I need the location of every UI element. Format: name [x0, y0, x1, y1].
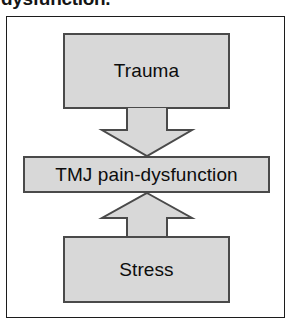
- node-label-trauma: Trauma: [114, 60, 179, 82]
- block-arrow-down-svg: [97, 107, 197, 158]
- node-box-stress: Stress: [63, 236, 230, 303]
- node-label-stress: Stress: [119, 259, 173, 281]
- block-arrow-down-icon: [97, 107, 197, 158]
- block-arrow-up-shape: [102, 193, 192, 237]
- figure-caption-truncated: dysfunction.: [1, 0, 110, 10]
- node-box-trauma: Trauma: [63, 33, 230, 109]
- figure-root: dysfunction. Trauma TMJ pain-dysfunction…: [0, 0, 291, 323]
- block-arrow-up-svg: [97, 191, 197, 238]
- node-label-tmj-pain-dysfunction: TMJ pain-dysfunction: [55, 164, 238, 186]
- block-arrow-down-shape: [102, 107, 192, 156]
- caption-clip: dysfunction.: [0, 0, 291, 13]
- block-arrow-up-icon: [97, 191, 197, 238]
- node-box-tmj-pain-dysfunction: TMJ pain-dysfunction: [23, 156, 270, 193]
- outer-frame: Trauma TMJ pain-dysfunction Stress: [6, 16, 285, 318]
